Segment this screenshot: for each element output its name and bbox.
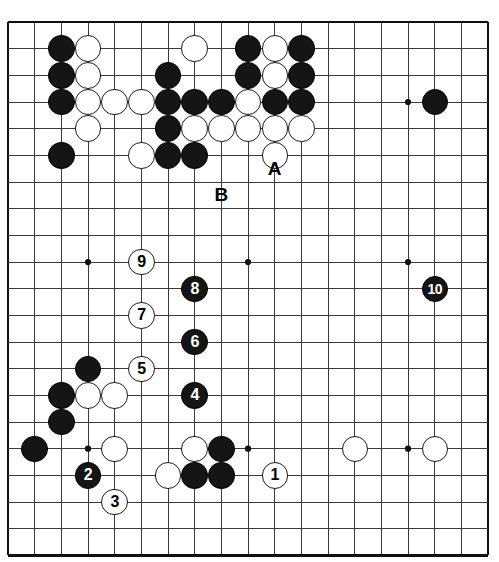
numbered-stone-7: 7 — [128, 302, 154, 328]
stone-number-label: 2 — [84, 467, 92, 483]
stone-number-label: 5 — [137, 360, 145, 376]
white-stone — [262, 62, 288, 88]
white-stone — [75, 62, 101, 88]
numbered-stone-1: 1 — [262, 462, 288, 488]
white-stone — [181, 436, 207, 462]
stone-number-label: 7 — [137, 307, 145, 323]
white-stone — [101, 89, 127, 115]
stone-number-label: 9 — [137, 254, 145, 270]
black-stone — [235, 62, 261, 88]
numbered-stone-3: 3 — [101, 489, 127, 515]
black-stone — [48, 62, 74, 88]
white-stone — [422, 436, 448, 462]
black-stone — [48, 89, 74, 115]
white-stone — [75, 35, 101, 61]
black-stone — [208, 89, 234, 115]
white-stone — [75, 382, 101, 408]
stone-number-label: 8 — [190, 280, 198, 296]
numbered-stone-10: 10 — [422, 276, 448, 302]
white-stone — [181, 35, 207, 61]
stone-number-label: 6 — [190, 334, 198, 350]
black-stone — [75, 356, 101, 382]
numbered-stone-6: 6 — [181, 329, 207, 355]
black-stone — [155, 62, 181, 88]
black-stone — [48, 382, 74, 408]
black-stone — [181, 89, 207, 115]
white-stone — [101, 382, 127, 408]
stone-number-label: 3 — [110, 494, 118, 510]
numbered-stone-9: 9 — [128, 249, 154, 275]
white-stone — [155, 462, 181, 488]
white-stone — [262, 35, 288, 61]
black-stone — [288, 89, 314, 115]
white-stone — [342, 436, 368, 462]
black-stone — [288, 62, 314, 88]
white-stone — [128, 89, 154, 115]
black-stone — [288, 35, 314, 61]
black-stone — [422, 89, 448, 115]
white-stone — [181, 115, 207, 141]
go-diagram: 12345678910 AB — [0, 0, 499, 562]
black-stone — [181, 462, 207, 488]
numbered-stone-4: 4 — [181, 382, 207, 408]
point-label-b: B — [210, 183, 232, 207]
stone-number-label: 1 — [270, 467, 278, 483]
black-stone — [181, 142, 207, 168]
white-stone — [101, 436, 127, 462]
black-stone — [235, 35, 261, 61]
stone-number-label: 10 — [427, 281, 442, 295]
black-stone — [208, 436, 234, 462]
numbered-stone-8: 8 — [181, 276, 207, 302]
black-stone — [155, 142, 181, 168]
black-stone — [48, 409, 74, 435]
white-stone — [235, 115, 261, 141]
numbered-stone-5: 5 — [128, 356, 154, 382]
black-stone — [21, 436, 47, 462]
point-label-a: A — [264, 157, 286, 181]
white-stone — [208, 115, 234, 141]
numbered-stone-2: 2 — [75, 462, 101, 488]
black-stone — [262, 89, 288, 115]
stone-number-label: 4 — [190, 387, 198, 403]
white-stone — [75, 115, 101, 141]
black-stone — [155, 115, 181, 141]
white-stone — [128, 142, 154, 168]
white-stone — [288, 115, 314, 141]
black-stone — [208, 462, 234, 488]
black-stone — [48, 142, 74, 168]
black-stone — [48, 35, 74, 61]
white-stone — [262, 115, 288, 141]
